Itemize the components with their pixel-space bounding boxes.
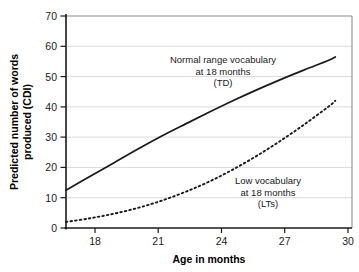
y-tick-label-30: 30	[45, 131, 57, 143]
lts-annotation-line1: Low vocabulary	[235, 175, 301, 186]
x-tick-label-21: 21	[152, 235, 164, 247]
td-annotation-line2: at 18 months	[196, 66, 251, 77]
lts-annotation-line3: (LTs)	[258, 198, 278, 209]
td-annotation-line3: (TD)	[214, 77, 233, 88]
line-chart: 70 60 50 40 30 20 10 0 18 21 24 27 30 Ag…	[0, 0, 359, 272]
y-tick-label-10: 10	[45, 192, 57, 204]
lts-annotation-line2: at 18 months	[241, 187, 296, 198]
x-tick-label-24: 24	[216, 235, 228, 247]
plot-background	[66, 16, 352, 228]
x-tick-label-18: 18	[89, 235, 101, 247]
td-annotation-line1: Normal range vocabulary	[170, 54, 276, 65]
x-tick-label-30: 30	[342, 235, 354, 247]
y-tick-label-20: 20	[45, 161, 57, 173]
y-tick-label-60: 60	[45, 40, 57, 52]
x-tick-label-27: 27	[279, 235, 291, 247]
y-axis-title-line2: produced (CDI)	[21, 84, 33, 160]
y-tick-label-70: 70	[45, 10, 57, 22]
y-tick-label-0: 0	[51, 222, 57, 234]
y-tick-label-50: 50	[45, 71, 57, 83]
chart-figure: 70 60 50 40 30 20 10 0 18 21 24 27 30 Ag…	[0, 0, 359, 272]
y-tick-label-40: 40	[45, 101, 57, 113]
x-axis-title: Age in months	[173, 253, 246, 265]
y-axis-title-line1: Predicted number of words	[8, 54, 20, 190]
y-tick-marks	[61, 16, 67, 228]
